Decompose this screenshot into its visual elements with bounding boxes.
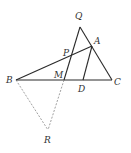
label-r: R: [43, 135, 51, 145]
segment-ad: [83, 46, 92, 80]
label-b: B: [5, 75, 13, 85]
segment-mr: [48, 80, 64, 130]
label-a: A: [93, 36, 101, 46]
label-c: C: [114, 77, 121, 87]
segment-br: [16, 80, 48, 130]
label-d: D: [77, 84, 85, 94]
geometry-diagram: Q A P B M D C R: [0, 0, 131, 153]
label-m: M: [53, 70, 64, 80]
label-q: Q: [75, 11, 83, 21]
label-p: P: [62, 48, 70, 58]
